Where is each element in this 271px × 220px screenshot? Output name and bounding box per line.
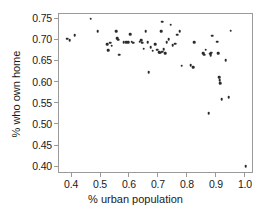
y-axis-tick-label: 0.45	[32, 139, 52, 151]
data-point	[141, 41, 144, 44]
y-axis-tick-label: 0.70	[32, 33, 52, 45]
data-point	[180, 64, 183, 67]
data-point	[162, 48, 165, 51]
y-axis-tick: 0.40	[32, 160, 58, 172]
data-point	[117, 39, 120, 42]
data-point	[217, 52, 220, 55]
data-point	[178, 30, 181, 33]
x-axis-tick-mark	[244, 173, 245, 177]
data-point	[218, 76, 221, 79]
data-point	[161, 20, 164, 23]
data-point	[229, 29, 232, 32]
data-point	[210, 54, 213, 57]
y-axis-tick-label: 0.65	[32, 54, 52, 66]
data-point	[168, 38, 171, 41]
y-axis-tick: 0.65	[32, 54, 58, 66]
x-axis: 0.40.50.60.70.80.91.0	[0, 173, 271, 193]
data-point	[211, 34, 214, 37]
x-axis-tick-label: 1.0	[238, 178, 252, 190]
y-axis-title: % who own home	[10, 14, 22, 174]
x-axis-tick: 0.6	[122, 173, 136, 190]
data-point	[164, 52, 167, 55]
data-point	[107, 49, 110, 52]
data-points-layer	[59, 14, 252, 172]
data-point	[165, 41, 168, 44]
x-axis-tick-mark	[71, 173, 72, 177]
x-axis-tick: 0.8	[180, 173, 194, 190]
y-axis-tick-label: 0.50	[32, 118, 52, 130]
data-point	[220, 98, 223, 101]
x-axis-tick-mark	[128, 173, 129, 177]
data-point	[245, 165, 248, 168]
data-point	[144, 30, 147, 33]
data-point	[89, 17, 92, 20]
data-point	[207, 112, 210, 115]
y-axis-tick-label: 0.55	[32, 97, 52, 109]
data-point	[129, 33, 132, 36]
data-point	[132, 41, 135, 44]
data-point	[170, 23, 173, 26]
y-axis-tick-label: 0.60	[32, 76, 52, 88]
data-point	[127, 41, 130, 44]
data-point	[152, 50, 155, 53]
x-axis-tick-mark	[100, 173, 101, 177]
x-axis-tick-label: 0.5	[93, 178, 107, 190]
plot-area	[58, 13, 253, 173]
y-axis-tick-label: 0.40	[32, 160, 52, 172]
x-axis-tick: 1.0	[238, 173, 252, 190]
data-point	[146, 41, 149, 44]
data-point	[192, 66, 195, 69]
y-axis-tick: 0.45	[32, 139, 58, 151]
data-point	[225, 59, 228, 62]
x-axis-tick-label: 0.4	[64, 178, 78, 190]
y-axis-tick: 0.70	[32, 33, 58, 45]
x-axis-tick: 0.4	[64, 173, 78, 190]
data-point	[73, 34, 76, 37]
y-axis-tick: 0.55	[32, 97, 58, 109]
data-point	[174, 42, 177, 45]
data-point	[150, 46, 153, 49]
x-axis-tick: 0.5	[93, 173, 107, 190]
data-point	[160, 30, 163, 33]
x-axis-tick-label: 0.6	[122, 178, 136, 190]
x-axis-tick-label: 0.7	[151, 178, 165, 190]
data-point	[154, 43, 157, 46]
x-axis-tick-label: 0.9	[209, 178, 223, 190]
data-point	[193, 41, 196, 44]
x-axis-tick-mark	[157, 173, 158, 177]
x-axis-tick-mark	[215, 173, 216, 177]
y-axis-tick-label: 0.75	[32, 12, 52, 24]
data-point	[210, 51, 213, 54]
y-axis-tick: 0.60	[32, 76, 58, 88]
data-point	[205, 48, 208, 51]
y-axis-tick: 0.75	[32, 12, 58, 24]
data-point	[68, 39, 71, 42]
scatter-plot-figure: 0.400.450.500.550.600.650.700.75 0.40.50…	[0, 0, 271, 220]
data-point	[227, 96, 230, 99]
data-point	[176, 33, 179, 36]
data-point	[97, 30, 100, 33]
data-point	[219, 82, 222, 85]
data-point	[216, 40, 219, 43]
x-axis-tick-label: 0.8	[180, 178, 194, 190]
x-axis-tick: 0.9	[209, 173, 223, 190]
y-axis-tick: 0.50	[32, 118, 58, 130]
x-axis-tick: 0.7	[151, 173, 165, 190]
data-point	[148, 71, 151, 74]
data-point	[115, 30, 118, 33]
x-axis-tick-mark	[186, 173, 187, 177]
data-point	[143, 47, 146, 50]
data-point	[203, 53, 206, 56]
data-point	[110, 44, 113, 47]
data-point	[118, 53, 121, 56]
x-axis-title: % urban population	[0, 193, 271, 205]
